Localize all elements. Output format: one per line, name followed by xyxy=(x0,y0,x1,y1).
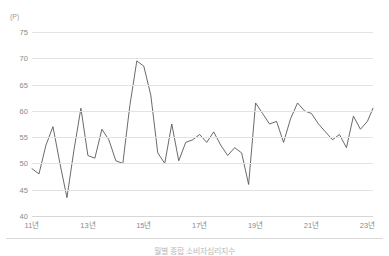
x-tick-label-2019: 19년 xyxy=(248,219,263,230)
x-tick-label-2023: 23년 xyxy=(360,219,375,230)
y-tick-label-45: 45 xyxy=(19,185,28,194)
gridline-70 xyxy=(32,58,373,59)
series-svg xyxy=(32,32,373,216)
series-line-consumer-sentiment xyxy=(32,61,373,198)
gridline-45 xyxy=(32,190,373,191)
y-tick-label-75: 75 xyxy=(19,28,28,37)
x-tick-label-2011: 11년 xyxy=(25,219,40,230)
caption-divider xyxy=(6,238,383,239)
y-axis: (P) 4045505560657075 xyxy=(0,0,32,256)
x-tick-label-2015: 15년 xyxy=(136,219,151,230)
gridline-40 xyxy=(32,216,373,217)
gridline-65 xyxy=(32,85,373,86)
x-tick-label-2017: 17년 xyxy=(192,219,207,230)
gridline-55 xyxy=(32,137,373,138)
figure-container: (P) 4045505560657075 11년13년15년17년19년21년2… xyxy=(0,0,389,256)
y-tick-label-60: 60 xyxy=(19,106,28,115)
y-tick-label-65: 65 xyxy=(19,80,28,89)
x-tick-label-2021: 21년 xyxy=(304,219,319,230)
y-axis-unit-label: (P) xyxy=(10,13,19,20)
x-axis: 11년13년15년17년19년21년23년 xyxy=(0,219,389,239)
x-tick-label-2013: 13년 xyxy=(80,219,95,230)
gridline-75 xyxy=(32,32,373,33)
y-tick-label-50: 50 xyxy=(19,159,28,168)
gridline-50 xyxy=(32,163,373,164)
gridline-60 xyxy=(32,111,373,112)
plot-area xyxy=(32,32,373,216)
y-tick-label-70: 70 xyxy=(19,54,28,63)
figure-caption: 월별 종합 소비자심리지수 xyxy=(0,245,389,256)
y-tick-label-55: 55 xyxy=(19,133,28,142)
